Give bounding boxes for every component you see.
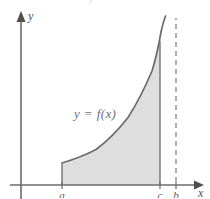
tick-label-b: b xyxy=(168,190,184,198)
function-equation-label: y = f(x) xyxy=(74,106,116,122)
y-axis-arrowhead xyxy=(17,11,26,22)
tick-label-c: c xyxy=(152,190,168,198)
figure-canvas xyxy=(0,0,210,199)
tick-label-a: a xyxy=(54,190,70,198)
x-axis-label: x xyxy=(198,186,203,199)
y-axis-label: y xyxy=(28,9,33,24)
improper-integral-figure: y y x y = f(x) a c b xyxy=(0,0,210,199)
